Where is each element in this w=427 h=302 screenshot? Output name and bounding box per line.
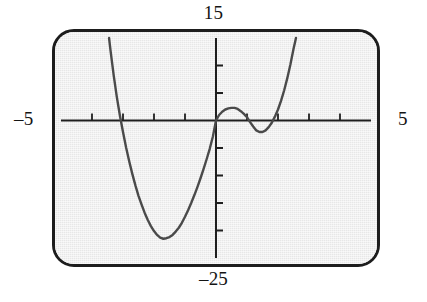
axis-label-ymax: 15 — [0, 2, 427, 24]
curve-series-quartic — [109, 38, 296, 239]
axis-label-ymin: –25 — [0, 268, 427, 290]
y-axis-ticks — [216, 66, 223, 231]
axis-label-xmin: –5 — [14, 108, 33, 130]
function-plot — [55, 32, 377, 264]
screen-surface — [55, 32, 377, 264]
calculator-screen — [52, 29, 380, 267]
calculator-figure: 15 –25 –5 5 — [0, 0, 427, 302]
axis-label-xmax: 5 — [398, 108, 408, 130]
